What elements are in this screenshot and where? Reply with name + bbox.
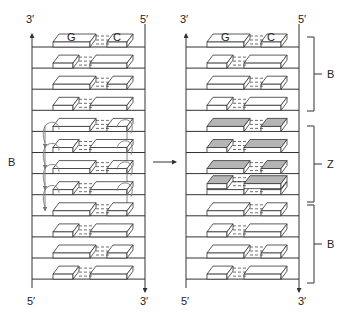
base-block xyxy=(244,140,287,153)
base-pair xyxy=(207,55,287,68)
base-block xyxy=(261,245,287,258)
base-pair: GC xyxy=(207,31,287,47)
base-pair xyxy=(53,76,133,89)
base-block xyxy=(244,224,287,237)
base-block xyxy=(261,76,287,89)
base-block xyxy=(90,97,133,110)
base-pair xyxy=(207,266,287,279)
base-letter-g: G xyxy=(221,31,230,43)
b-to-z-dna-diagram: GC GC 3′ 5′ 5′ 3′ B 3′ 5′ 5′ 3′ B Z B xyxy=(0,0,350,321)
base-pair xyxy=(53,182,133,195)
base-pair xyxy=(207,224,287,237)
base-pair xyxy=(207,245,287,258)
base-block xyxy=(107,203,133,216)
base-pair xyxy=(53,203,133,216)
right-bottom-left-label: 5′ xyxy=(181,295,189,307)
base-block xyxy=(207,97,233,110)
bracket-label: Z xyxy=(327,158,334,170)
base-pair xyxy=(53,118,133,131)
base-block xyxy=(53,118,96,131)
base-block xyxy=(53,182,79,195)
base-pair xyxy=(207,140,287,153)
base-block xyxy=(244,176,287,189)
base-pair xyxy=(207,97,287,110)
right-top-left-label: 3′ xyxy=(180,13,188,25)
base-block xyxy=(53,266,79,279)
left-panel: GC xyxy=(32,24,145,292)
base-block xyxy=(207,161,250,174)
base-block xyxy=(244,97,287,110)
base-pair xyxy=(207,161,287,174)
bracket-bottom-b: B xyxy=(307,205,334,283)
base-pair xyxy=(207,203,287,216)
bracket-z: Z xyxy=(307,126,334,202)
base-letter-c: C xyxy=(113,31,121,43)
base-block xyxy=(244,55,287,68)
base-block xyxy=(207,266,233,279)
base-block xyxy=(207,118,250,131)
base-block xyxy=(107,76,133,89)
right-bottom-right-label: 3′ xyxy=(298,295,306,307)
bracket-label: B xyxy=(327,238,334,250)
base-block xyxy=(53,161,96,174)
base-block xyxy=(90,266,133,279)
base-block xyxy=(53,224,79,237)
base-block xyxy=(53,97,79,110)
left-bottom-left-label: 5′ xyxy=(27,295,35,307)
left-side-label-b: B xyxy=(8,156,15,168)
base-letter-g: G xyxy=(67,31,76,43)
bracket-top-b: B xyxy=(307,37,334,111)
base-pair xyxy=(207,76,287,89)
base-pair xyxy=(53,224,133,237)
base-block xyxy=(90,224,133,237)
base-block xyxy=(207,224,233,237)
base-block xyxy=(244,266,287,279)
left-top-left-label: 3′ xyxy=(26,13,34,25)
right-top-right-label: 5′ xyxy=(298,13,306,25)
base-block xyxy=(53,245,96,258)
base-block xyxy=(53,76,96,89)
right-panel: GC xyxy=(186,24,299,292)
base-block xyxy=(261,203,287,216)
bracket-label: B xyxy=(327,68,334,80)
base-block xyxy=(207,245,250,258)
base-block xyxy=(207,140,233,153)
base-pair xyxy=(207,118,287,131)
base-block xyxy=(53,203,96,216)
base-block xyxy=(90,55,133,68)
base-pair xyxy=(53,161,133,174)
base-block xyxy=(261,161,287,174)
base-block xyxy=(107,245,133,258)
left-top-right-label: 5′ xyxy=(140,13,148,25)
base-block xyxy=(207,55,233,68)
base-pair xyxy=(207,176,287,195)
base-pair xyxy=(53,245,133,258)
base-pair xyxy=(53,55,133,68)
base-block xyxy=(53,55,79,68)
left-bottom-right-label: 3′ xyxy=(140,295,148,307)
base-block xyxy=(261,118,287,131)
base-pair xyxy=(53,97,133,110)
base-pair: GC xyxy=(53,31,133,47)
base-block xyxy=(207,203,250,216)
base-letter-c: C xyxy=(267,31,275,43)
base-block xyxy=(207,76,250,89)
base-pair xyxy=(53,266,133,279)
base-block xyxy=(53,140,79,153)
base-pair xyxy=(53,140,133,153)
